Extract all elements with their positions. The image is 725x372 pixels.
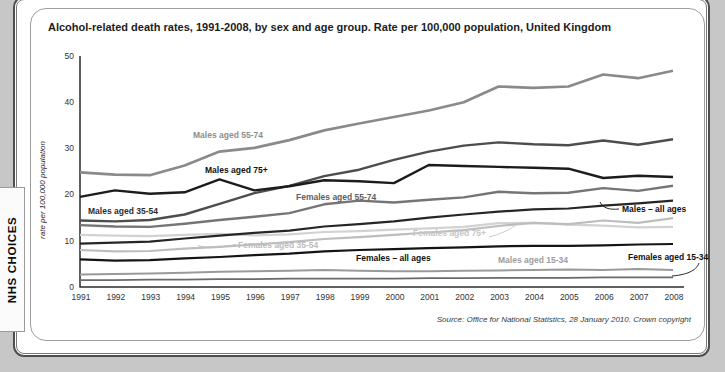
- app-background: { "brand": { "tab_label": "NHS CHOICES" …: [0, 0, 725, 372]
- x-axis-year-label: 1996: [246, 292, 265, 302]
- x-axis-year-label: 1999: [351, 292, 370, 302]
- series-label-males-15-34: Males aged 15-34: [498, 255, 568, 265]
- x-axis-year-label: 2008: [665, 292, 684, 302]
- y-axis-tick-label: 20: [65, 189, 75, 199]
- nhs-choices-label: NHS CHOICES: [0, 188, 24, 333]
- series-label-females-15-34: Females aged 15-34: [628, 252, 709, 262]
- label-connector-females-15-34: [672, 263, 699, 276]
- series-label-females-75plus: Females aged 75+: [413, 228, 486, 238]
- series-line-males-15-34: [80, 269, 673, 275]
- series-label-males-75plus: Males aged 75+: [205, 165, 268, 175]
- x-axis-year-label: 2005: [560, 292, 579, 302]
- x-axis-year-label: 2001: [420, 292, 439, 302]
- x-axis-year-label: 2004: [525, 292, 544, 302]
- x-axis-year-label: 1991: [72, 292, 91, 302]
- series-line-males-35-54: [80, 139, 673, 221]
- series-line-males-55-74: [80, 71, 673, 175]
- series-label-females-55-74: Females aged 55-74: [296, 192, 377, 202]
- nhs-choices-tab: NHS CHOICES: [0, 187, 25, 332]
- y-axis-tick-label: 0: [69, 282, 74, 292]
- series-line-females-15-34: [80, 277, 673, 280]
- x-axis-year-label: 1993: [141, 292, 160, 302]
- x-axis-year-label: 1995: [211, 292, 230, 302]
- y-axis-title: rate per 100,000 population: [38, 114, 50, 266]
- series-label-females-35-54: Females aged 35-54: [238, 240, 319, 250]
- x-axis-year-label: 2002: [455, 292, 474, 302]
- x-axis-year-label: 1998: [316, 292, 335, 302]
- x-axis-year-label: 1992: [106, 292, 125, 302]
- series-label-females-all-ages: Females – all ages: [356, 253, 431, 263]
- x-axis-year-label: 2000: [385, 292, 404, 302]
- x-axis-year-label: 1994: [176, 292, 195, 302]
- x-axis-year-label: 2006: [595, 292, 614, 302]
- page-title: Alcohol-related death rates, 1991-2008, …: [48, 21, 688, 33]
- y-axis-tick-label: 10: [65, 236, 75, 246]
- series-label-males-all-ages: Males – all ages: [622, 204, 687, 214]
- x-axis-year-label: 2003: [490, 292, 509, 302]
- x-axis-year-label: 2007: [630, 292, 649, 302]
- y-axis-tick-label: 50: [65, 51, 75, 61]
- source-note: Source: Office for National Statistics, …: [437, 315, 691, 324]
- series-label-males-35-54: Males aged 35-54: [88, 206, 158, 216]
- series-label-males-55-74: Males aged 55-74: [193, 130, 263, 140]
- y-axis-tick-label: 30: [65, 143, 75, 153]
- y-axis-tick-label: 40: [65, 97, 75, 107]
- x-axis-year-label: 1997: [281, 292, 300, 302]
